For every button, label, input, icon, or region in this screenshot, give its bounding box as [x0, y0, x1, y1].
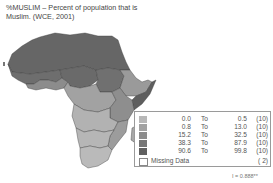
legend-swatch — [139, 116, 147, 123]
legend-missing-label: Missing Data — [151, 157, 189, 165]
legend-row: 90.6 To 99.8 (10) — [135, 147, 270, 155]
legend-low: 0.8 — [165, 123, 191, 131]
region-southern-africa — [76, 128, 114, 148]
legend-row: 15.2 To 32.5 (10) — [135, 131, 270, 139]
legend-swatch — [139, 132, 147, 139]
legend: 0.0 To 0.5 (10) 0.8 To 13.0 (10) 15.2 To… — [134, 111, 271, 167]
legend-row: 38.3 To 87.9 (10) — [135, 139, 270, 147]
legend-low: 0.0 — [165, 115, 191, 123]
legend-count: (10) — [250, 131, 268, 139]
legend-row: 0.8 To 13.0 (10) — [135, 123, 270, 131]
legend-high: 99.8 — [221, 147, 247, 155]
legend-count: (10) — [250, 147, 268, 155]
legend-missing-count: ( 2) — [250, 157, 268, 165]
legend-high: 32.5 — [221, 131, 247, 139]
legend-low: 90.6 — [165, 147, 191, 155]
legend-swatch — [139, 140, 147, 147]
region-island — [3, 62, 5, 66]
legend-to: To — [201, 147, 208, 155]
legend-to: To — [201, 115, 208, 123]
legend-low: 38.3 — [165, 139, 191, 147]
legend-to: To — [201, 131, 208, 139]
legend-swatch — [139, 148, 147, 155]
legend-swatch — [139, 124, 147, 131]
legend-to: To — [201, 139, 208, 147]
region-south-africa — [80, 146, 112, 168]
legend-count: (10) — [250, 123, 268, 131]
legend-count: (10) — [250, 115, 268, 123]
region-north-africa — [8, 33, 130, 74]
legend-swatch-missing — [139, 158, 148, 166]
legend-high: 87.9 — [221, 139, 247, 147]
map-title: %MUSLIM – Percent of population that is … — [6, 4, 137, 21]
title-line-2: Muslim. (WCE, 2001) — [6, 13, 137, 22]
legend-count: (10) — [250, 139, 268, 147]
legend-to: To — [201, 123, 208, 131]
legend-high: 13.0 — [221, 123, 247, 131]
legend-high: 0.5 — [221, 115, 247, 123]
legend-row: 0.0 To 0.5 (10) — [135, 115, 270, 123]
morans-i-statistic: I = 0.888** — [232, 173, 258, 179]
legend-row-missing: Missing Data ( 2) — [135, 157, 270, 165]
legend-low: 15.2 — [165, 131, 191, 139]
